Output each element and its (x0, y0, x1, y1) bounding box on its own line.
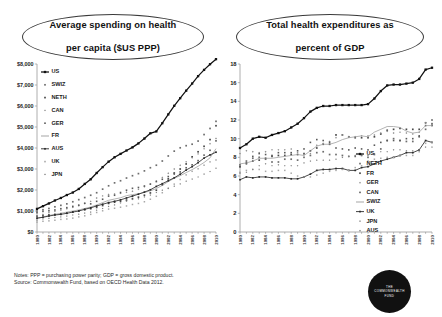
x-axis-tick-label: 1992 (106, 235, 111, 245)
legend-item-can[interactable]: CAN (359, 189, 378, 195)
series-fr (37, 149, 216, 219)
legend-item-jpn[interactable]: JPN (359, 218, 377, 224)
x-axis-tick-label: 1992 (314, 235, 319, 245)
legend-label: JPN (52, 171, 63, 177)
legend-item-fr[interactable]: FR (359, 170, 374, 176)
legend-item-fr[interactable]: FR (41, 132, 59, 138)
y-axis-tick-label: 6 (233, 173, 237, 179)
y-axis-tick-label: 18 (230, 61, 237, 67)
y-axis-tick-label: $6,000 (17, 103, 34, 109)
y-axis-tick-label: 12 (230, 117, 236, 123)
x-axis-tick-label: 1988 (82, 235, 87, 245)
y-axis-tick-label: 14 (230, 98, 237, 104)
x-axis-tick-label: 1988 (289, 235, 294, 245)
legend-item-ger[interactable]: GER (359, 179, 379, 185)
commonwealth-fund-logo: THE COMMONWEALTH FUND (368, 270, 411, 313)
legend-item-us[interactable]: US (41, 68, 60, 74)
legend-item-can[interactable]: CAN (44, 107, 64, 113)
y-axis-tick-label: $5,000 (17, 124, 34, 130)
chart-title-gdp-line1: Total health expenditures as (260, 20, 400, 32)
chart-title-gdp-line2: percent of GDP (260, 43, 400, 55)
legend-item-uk[interactable]: UK (44, 158, 59, 164)
series-aus (36, 151, 217, 219)
x-axis-tick-label: 1990 (302, 235, 307, 245)
x-axis-tick-label: 2010 (214, 235, 219, 245)
legend-label: UK (52, 158, 60, 164)
y-axis-tick-label: 10 (230, 136, 236, 142)
y-axis-tick-label: 16 (230, 80, 237, 86)
legend-label: FR (367, 170, 374, 176)
chart-panel-gdp: Total health expenditures as percent of … (222, 6, 438, 268)
x-axis-tick-label: 1998 (353, 235, 358, 245)
x-axis-tick-label: 1996 (130, 235, 135, 245)
series-fr (239, 122, 433, 168)
series-uk (239, 140, 433, 181)
x-axis-tick-label: 2010 (430, 235, 435, 245)
x-axis-tick-label: 2004 (391, 235, 396, 245)
logo-line3: FUND (385, 294, 395, 298)
legend-item-neth[interactable]: NETH (359, 160, 382, 166)
series-swiz (240, 126, 432, 164)
chart-title-spending: Average spending on health per capita ($… (22, 14, 204, 60)
y-axis-tick-label: 0 (233, 229, 236, 235)
legend-item-ger[interactable]: GER (44, 120, 63, 126)
x-axis-tick-label: 1984 (58, 235, 63, 245)
y-axis-tick-label: 4 (233, 192, 237, 198)
x-axis-tick-label: 2006 (404, 235, 409, 245)
legend-item-uk[interactable]: UK (356, 208, 375, 214)
x-axis-tick-label: 1984 (263, 235, 268, 245)
x-axis-tick-label: 1998 (142, 235, 147, 245)
legend-label: NETH (52, 94, 67, 100)
y-axis-tick-label: $7,000 (17, 82, 34, 88)
x-axis-tick-label: 1980 (35, 235, 40, 245)
y-axis-tick-label: $8,000 (17, 61, 34, 67)
legend-label: SWIZ (367, 198, 382, 204)
notes-line: Notes: PPP = purchasing power parity; GD… (14, 272, 314, 279)
y-axis-tick-label: 2 (233, 210, 236, 216)
series-ger (239, 122, 433, 156)
chart-title-spending-line2: per capita ($US PPP) (44, 43, 183, 55)
legend-label: AUS (52, 145, 64, 151)
series-can (239, 125, 433, 168)
x-axis-tick-label: 2004 (178, 235, 183, 245)
x-axis-tick-label: 1990 (94, 235, 99, 245)
legend-label: CAN (52, 107, 64, 113)
slide-canvas: Average spending on health per capita ($… (0, 0, 442, 317)
series-uk (36, 159, 217, 223)
legend-item-neth[interactable]: NETH (44, 94, 67, 100)
source-line: Source: Commonwealth Fund, based on OECD… (14, 279, 314, 286)
legend-item-jpn[interactable]: JPN (44, 171, 62, 177)
legend-label: CAN (367, 189, 379, 195)
y-axis-tick-label: $4,000 (17, 145, 34, 151)
x-axis-tick-label: 2008 (417, 235, 422, 245)
y-axis-tick-label: $2,000 (17, 187, 34, 193)
legend-item-swiz[interactable]: SWIZ (44, 81, 66, 87)
x-axis-tick-label: 1994 (327, 235, 332, 245)
chart-title-spending-line1: Average spending on health (44, 20, 183, 32)
x-axis-tick-label: 1994 (118, 235, 123, 245)
x-axis-tick-label: 2002 (378, 235, 383, 245)
x-axis-tick-label: 2000 (154, 235, 159, 245)
legend-label: NETH (367, 160, 382, 166)
legend-label: GER (367, 179, 379, 185)
x-axis-tick-label: 2008 (202, 235, 207, 245)
chart-title-gdp: Total health expenditures as percent of … (236, 14, 424, 60)
x-axis-tick-label: 2000 (366, 235, 371, 245)
x-axis-tick-label: 1980 (238, 235, 243, 245)
legend-label: UK (367, 208, 375, 214)
x-axis-tick-label: 1982 (47, 235, 52, 245)
chart-panel-spending: Average spending on health per capita ($… (4, 6, 222, 268)
series-us (239, 67, 433, 150)
x-axis-tick-label: 1996 (340, 235, 345, 245)
legend-label: US (52, 68, 60, 74)
x-axis-tick-label: 2002 (166, 235, 171, 245)
x-axis-tick-label: 1986 (276, 235, 281, 245)
y-axis-tick-label: 8 (233, 154, 237, 160)
legend-item-aus[interactable]: AUS (41, 145, 64, 151)
legend-item-us[interactable]: US (356, 150, 375, 156)
legend-label: GER (52, 120, 64, 126)
legend-item-swiz[interactable]: SWIZ (356, 198, 381, 204)
legend-label: JPN (367, 218, 378, 224)
legend-label: SWIZ (52, 81, 67, 87)
footnotes: Notes: PPP = purchasing power parity; GD… (14, 272, 314, 286)
